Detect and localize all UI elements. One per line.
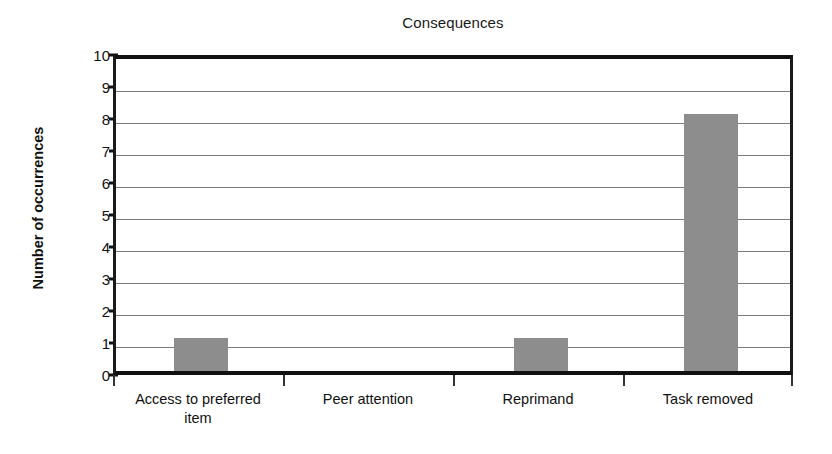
x-axis-ticks: [113, 375, 793, 387]
bar[interactable]: [514, 338, 568, 371]
y-tick-label: 4: [68, 240, 110, 255]
x-tick-label-line: item: [113, 409, 283, 428]
y-tick-label: 8: [68, 112, 110, 127]
bar[interactable]: [174, 338, 228, 371]
x-tick-label: Access to preferreditem: [113, 390, 283, 428]
y-tick-label: 10: [68, 48, 110, 63]
y-tick-label: 5: [68, 208, 110, 223]
y-tick-label: 7: [68, 144, 110, 159]
y-tick-label: 3: [68, 272, 110, 287]
y-tick-label: 1: [68, 336, 110, 351]
y-tick-label: 2: [68, 304, 110, 319]
bar[interactable]: [684, 114, 738, 371]
chart-title: Consequences: [113, 14, 793, 31]
y-tick-label: 9: [68, 80, 110, 95]
bar-slot: [286, 59, 456, 371]
bar-chart-figure: Consequences Number of occurrences 10987…: [0, 0, 832, 454]
bars-layer: [116, 59, 790, 371]
x-tick-mark: [791, 375, 793, 386]
x-tick-label: Reprimand: [453, 390, 623, 409]
x-tick-label-line: Reprimand: [453, 390, 623, 409]
x-axis-labels: Access to preferreditemPeer attentionRep…: [113, 390, 793, 450]
y-tick-label: 0: [68, 368, 110, 383]
x-tick-mark: [623, 375, 625, 386]
x-tick-mark: [453, 375, 455, 386]
y-axis-title: Number of occurrences: [30, 88, 46, 328]
x-tick-label-line: Peer attention: [283, 390, 453, 409]
y-tick-label: 6: [68, 176, 110, 191]
x-tick-label-line: Task removed: [623, 390, 793, 409]
x-tick-label-line: Access to preferred: [113, 390, 283, 409]
bar-slot: [456, 59, 626, 371]
x-tick-mark: [283, 375, 285, 386]
bar-slot: [626, 59, 796, 371]
x-tick-label: Task removed: [623, 390, 793, 409]
y-axis-ticks: 109876543210: [52, 55, 110, 375]
x-tick-label: Peer attention: [283, 390, 453, 409]
plot-area: [113, 55, 793, 375]
bar-slot: [116, 59, 286, 371]
x-tick-mark: [113, 375, 115, 386]
